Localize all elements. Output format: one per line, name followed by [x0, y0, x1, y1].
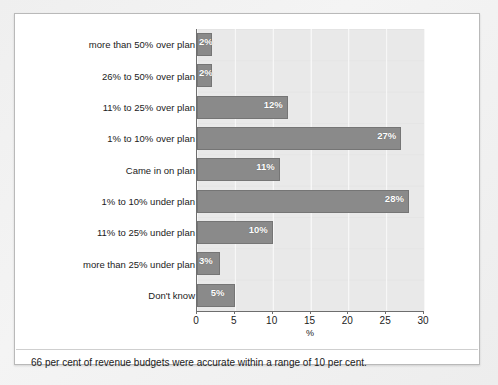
category-label: Don't know	[25, 290, 195, 301]
bar-value-label: 11%	[256, 161, 275, 172]
category-label: 26% to 50% over plan	[25, 71, 195, 82]
x-tick-label: 25	[380, 315, 391, 326]
figure-caption: 66 per cent of revenue budgets were accu…	[31, 356, 463, 369]
x-tick-mark	[234, 311, 235, 314]
x-tick-label: 20	[342, 315, 353, 326]
x-axis: 051015202530	[196, 311, 424, 327]
bar-row: 10%	[197, 217, 424, 248]
bar[interactable]	[197, 190, 409, 213]
bar[interactable]	[197, 127, 401, 150]
category-label: more than 50% over plan	[25, 39, 195, 50]
x-tick-label: 30	[417, 315, 428, 326]
bar-row: 27%	[197, 123, 424, 154]
bar-row: 11%	[197, 154, 424, 185]
caption-divider	[16, 349, 478, 350]
bar-row: 2%	[197, 60, 424, 91]
plot-area: 2%2%12%27%11%28%10%3%5%	[196, 29, 424, 312]
bar-row: 3%	[197, 248, 424, 279]
x-tick-mark	[423, 311, 424, 314]
category-label-column: more than 50% over plan26% to 50% over p…	[23, 29, 195, 311]
category-label: more than 25% under plan	[25, 259, 195, 270]
category-label: 1% to 10% over plan	[25, 133, 195, 144]
bar-row: 5%	[197, 280, 424, 311]
x-tick-label: 15	[304, 315, 315, 326]
x-tick-mark	[310, 311, 311, 314]
x-tick-mark	[272, 311, 273, 314]
figure-root: more than 50% over plan26% to 50% over p…	[0, 0, 498, 385]
bar-value-label: 3%	[199, 255, 213, 266]
x-tick-label: 10	[266, 315, 277, 326]
x-tick-mark	[347, 311, 348, 314]
category-label: Came in on plan	[25, 165, 195, 176]
bar-value-label: 27%	[377, 130, 396, 141]
bar-row: 2%	[197, 29, 424, 60]
bar-value-label: 12%	[264, 99, 283, 110]
bar-chart: more than 50% over plan26% to 50% over p…	[15, 14, 479, 348]
category-label: 11% to 25% under plan	[25, 227, 195, 238]
bar-value-label: 5%	[211, 287, 225, 298]
bar-value-label: 28%	[385, 193, 404, 204]
figure-card: more than 50% over plan26% to 50% over p…	[14, 13, 480, 365]
bar-value-label: 10%	[249, 224, 268, 235]
x-tick-mark	[385, 311, 386, 314]
bar-row: 28%	[197, 186, 424, 217]
category-label: 1% to 10% under plan	[25, 196, 195, 207]
x-tick-label: 0	[193, 315, 199, 326]
x-tick-mark	[196, 311, 197, 314]
x-axis-title: %	[196, 328, 424, 338]
category-label: 11% to 25% over plan	[25, 102, 195, 113]
bar-value-label: 2%	[199, 36, 213, 47]
bar-value-label: 2%	[199, 67, 213, 78]
x-tick-label: 5	[231, 315, 237, 326]
gridline	[424, 29, 425, 311]
bar-row: 12%	[197, 92, 424, 123]
